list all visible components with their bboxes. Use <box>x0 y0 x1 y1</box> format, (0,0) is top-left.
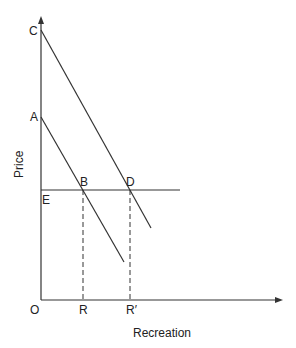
diagram-canvas: C A E B D O R R′ Recreation Price <box>0 0 296 348</box>
x-axis-label: Recreation <box>133 326 191 340</box>
label-C: C <box>29 24 38 38</box>
label-D: D <box>126 175 135 189</box>
label-origin: O <box>30 303 39 317</box>
x-axis-arrow-icon <box>275 297 283 303</box>
demand-curve-upper <box>41 30 151 228</box>
y-axis-arrow-icon <box>38 16 44 24</box>
label-B: B <box>80 175 88 189</box>
y-axis-label: Price <box>12 150 26 178</box>
label-R-prime: R′ <box>126 303 138 317</box>
label-A: A <box>30 110 38 124</box>
label-R: R <box>79 303 88 317</box>
label-E: E <box>42 193 50 207</box>
